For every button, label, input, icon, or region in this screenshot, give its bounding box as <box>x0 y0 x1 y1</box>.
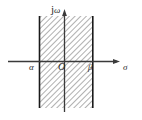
imaginary-axis-label: jω <box>51 4 60 15</box>
beta-label: β <box>88 63 92 72</box>
imaginary-axis-arrowhead <box>62 9 67 16</box>
real-axis-label: σ <box>123 63 127 72</box>
alpha-label: α <box>29 63 34 72</box>
figure-container: jω α O β σ <box>0 0 142 120</box>
s-plane-diagram <box>0 0 142 120</box>
origin-label: O <box>58 62 65 72</box>
imaginary-axis-label-omega: ω <box>54 5 60 15</box>
real-axis-arrowhead <box>113 59 120 64</box>
